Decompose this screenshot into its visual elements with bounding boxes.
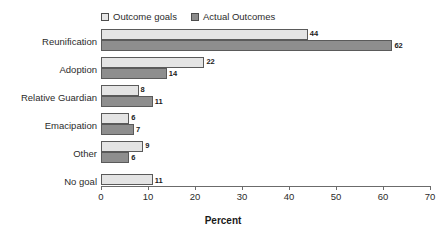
category-label-adoption: Adoption	[2, 56, 97, 82]
bar-actual-outcomes-adoption	[101, 68, 167, 79]
bar-actual-outcomes-reunification	[101, 40, 392, 51]
cropped-title	[0, 0, 446, 5]
bar-group-emacipation: 6 7	[101, 112, 446, 138]
category-label-emacipation: Emacipation	[2, 112, 97, 138]
bar-outcome-goals-reunification	[101, 29, 308, 40]
legend-label-outcome-goals: Outcome goals	[113, 12, 177, 22]
bar-value-actual-outcomes-adoption: 14	[169, 69, 177, 78]
bar-value-outcome-goals-adoption: 22	[206, 57, 214, 66]
legend-item-actual-outcomes: Actual Outcomes	[191, 12, 275, 22]
category-label-reunification: Reunification	[2, 28, 97, 54]
bar-actual-outcomes-relative-guardian	[101, 96, 153, 107]
bar-group-relative-guardian: 8 11	[101, 84, 446, 110]
x-axis-tick-label-0: 0	[98, 191, 103, 202]
chart-row-emacipation: Emacipation 6 7	[0, 112, 446, 138]
x-axis-tick-20	[195, 186, 196, 190]
category-label-relative-guardian: Relative Guardian	[2, 84, 97, 110]
bar-group-other: 9 6	[101, 140, 446, 166]
x-axis-tick-30	[242, 186, 243, 190]
bar-value-outcome-goals-other: 9	[145, 141, 149, 150]
bar-value-actual-outcomes-relative-guardian: 11	[155, 97, 163, 106]
x-axis-tick-60	[383, 186, 384, 190]
category-label-other: Other	[2, 140, 97, 166]
x-axis-tick-label-60: 60	[378, 191, 389, 202]
dark-swatch-icon	[191, 13, 199, 21]
plot-area: Reunification 44 62 Adoption 22 14 Relat…	[0, 28, 446, 186]
light-swatch-icon	[101, 13, 109, 21]
x-axis-line	[101, 186, 430, 187]
x-axis-title: Percent	[0, 215, 446, 226]
chart-row-adoption: Adoption 22 14	[0, 56, 446, 82]
x-axis-tick-label-10: 10	[143, 191, 154, 202]
bar-value-outcome-goals-no-goal: 11	[155, 176, 163, 185]
x-axis-tick-label-50: 50	[331, 191, 342, 202]
bar-chart: Outcome goals Actual Outcomes Reunificat…	[0, 0, 446, 238]
bar-value-actual-outcomes-emacipation: 7	[136, 125, 140, 134]
chart-row-relative-guardian: Relative Guardian 8 11	[0, 84, 446, 110]
x-axis-tick-70	[430, 186, 431, 190]
chart-row-other: Other 9 6	[0, 140, 446, 166]
legend-label-actual-outcomes: Actual Outcomes	[203, 12, 275, 22]
bar-outcome-goals-adoption	[101, 57, 204, 68]
bar-value-outcome-goals-emacipation: 6	[131, 113, 135, 122]
x-axis-tick-label-40: 40	[284, 191, 295, 202]
bar-outcome-goals-no-goal	[101, 174, 153, 185]
bar-value-actual-outcomes-other: 6	[131, 153, 135, 162]
x-axis-tick-label-30: 30	[237, 191, 248, 202]
bar-group-adoption: 22 14	[101, 56, 446, 82]
x-axis-tick-label-20: 20	[190, 191, 201, 202]
chart-legend: Outcome goals Actual Outcomes	[101, 10, 331, 24]
x-axis-tick-50	[336, 186, 337, 190]
bar-value-outcome-goals-relative-guardian: 8	[141, 85, 145, 94]
bar-outcome-goals-other	[101, 141, 143, 152]
bar-value-outcome-goals-reunification: 44	[310, 29, 318, 38]
x-axis-tick-10	[148, 186, 149, 190]
bar-outcome-goals-relative-guardian	[101, 85, 139, 96]
bar-outcome-goals-emacipation	[101, 113, 129, 124]
x-axis-tick-0	[101, 186, 102, 190]
x-axis-tick-40	[289, 186, 290, 190]
chart-row-reunification: Reunification 44 62	[0, 28, 446, 54]
category-label-no-goal: No goal	[2, 168, 97, 194]
x-axis-tick-label-70: 70	[425, 191, 436, 202]
legend-item-outcome-goals: Outcome goals	[101, 12, 177, 22]
bar-value-actual-outcomes-reunification: 62	[394, 41, 402, 50]
bar-actual-outcomes-other	[101, 152, 129, 163]
bar-group-reunification: 44 62	[101, 28, 446, 54]
bar-actual-outcomes-emacipation	[101, 124, 134, 135]
